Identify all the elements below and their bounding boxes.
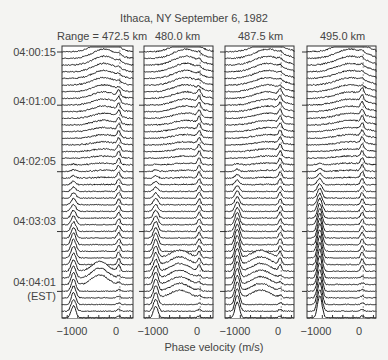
panel-label-2: 480.0 km [155,30,200,42]
panel-4 [302,46,376,318]
x-tick-p3-zero: 0 [275,325,281,337]
x-tick-p3-neg1000: −1000 [220,325,251,337]
x-tick-p4-neg1000: −1000 [301,325,332,337]
panel-label-1: Range = 472.5 km [57,30,147,42]
panel-2 [139,46,213,318]
x-tick-p2-zero: 0 [194,325,200,337]
x-tick-p2-neg1000: −1000 [138,325,169,337]
panel-3 [220,46,294,318]
panel-label-4: 495.0 km [320,30,365,42]
y-label-2: 04:02:05 [0,155,56,167]
waterfall-figure [0,0,388,360]
y-label-4: 04:04:01 [0,276,56,288]
y-label-0: 04:00:15 [0,46,56,58]
y-label-unit: (EST) [0,290,56,302]
y-label-3: 04:03:03 [0,215,56,227]
panel-label-3: 487.5 km [238,30,283,42]
x-axis-label: Phase velocity (m/s) [0,341,388,353]
x-tick-p1-zero: 0 [113,325,119,337]
panel-1 [57,46,133,318]
x-tick-p1-neg1000: −1000 [57,325,88,337]
x-tick-p4-zero: 0 [356,325,362,337]
y-label-1: 04:01:00 [0,95,56,107]
figure-title: Ithaca, NY September 6, 1982 [0,12,388,24]
